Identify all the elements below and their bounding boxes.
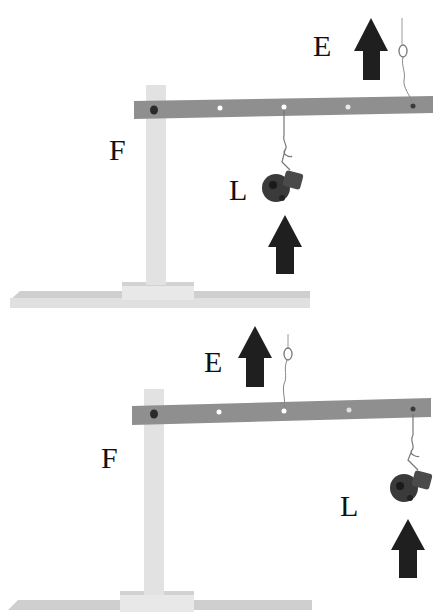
hole	[218, 106, 223, 111]
base	[10, 282, 310, 308]
lever-panel-bottom: E F L	[0, 310, 444, 612]
beam	[132, 398, 431, 425]
pivot-bolt	[150, 106, 158, 115]
hole	[347, 408, 352, 413]
load-label: L	[229, 173, 247, 206]
arrow-up-icon	[391, 519, 425, 578]
hole	[217, 410, 222, 415]
fulcrum-label: F	[109, 133, 126, 166]
hole	[411, 407, 416, 412]
hole	[282, 105, 287, 110]
load-weight	[262, 110, 304, 202]
hole	[346, 105, 351, 110]
load-weight	[390, 414, 433, 502]
lever-diagram-top: E F L	[0, 0, 444, 310]
fulcrum-label: F	[101, 441, 118, 474]
arrow-up-icon	[354, 18, 388, 80]
hole	[282, 409, 287, 414]
lever-diagram-bottom: E F L	[0, 310, 444, 612]
effort-string	[283, 334, 292, 408]
effort-label: E	[204, 345, 222, 378]
arrow-up-icon	[238, 326, 272, 387]
effort-label: E	[313, 29, 331, 62]
hole	[411, 104, 416, 109]
pivot-bolt	[150, 410, 158, 419]
effort-string	[399, 18, 413, 104]
load-label: L	[340, 489, 358, 522]
lever-panel-top: E F L	[0, 0, 444, 310]
arrow-up-icon	[268, 215, 302, 274]
